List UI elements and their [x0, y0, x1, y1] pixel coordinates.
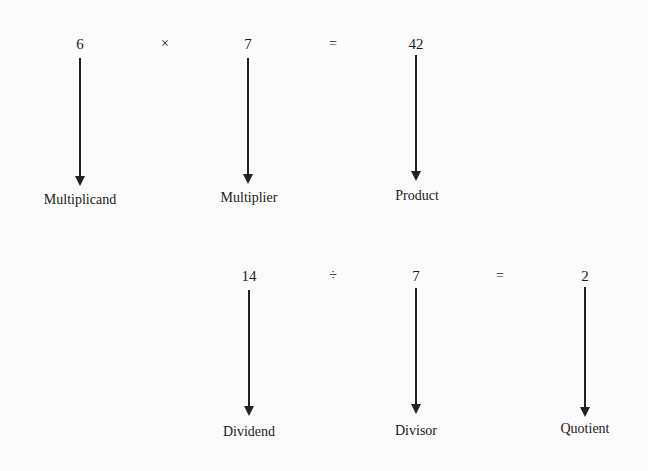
product-label: Product — [395, 188, 439, 204]
quotient-value: 2 — [581, 268, 589, 285]
multiplicand-value: 6 — [76, 36, 84, 53]
arrow-down-icon — [247, 58, 249, 176]
quotient-label: Quotient — [561, 421, 610, 437]
divide-operator: ÷ — [329, 268, 337, 284]
dividend-label: Dividend — [223, 424, 275, 440]
arrow-down-icon — [415, 288, 417, 406]
multiplier-label: Multiplier — [221, 190, 278, 206]
arrow-down-icon — [415, 55, 417, 173]
multiplier-value: 7 — [244, 36, 252, 53]
arrow-down-icon — [584, 287, 586, 409]
product-value: 42 — [409, 36, 424, 53]
equals-sign: = — [329, 36, 337, 52]
dividend-value: 14 — [242, 268, 257, 285]
arrow-down-icon — [79, 58, 81, 178]
multiply-operator: × — [161, 36, 169, 52]
arrow-down-icon — [248, 290, 250, 408]
divisor-label: Divisor — [395, 423, 437, 439]
multiplicand-label: Multiplicand — [44, 192, 116, 208]
equals-sign: = — [496, 268, 504, 284]
divisor-value: 7 — [412, 268, 420, 285]
